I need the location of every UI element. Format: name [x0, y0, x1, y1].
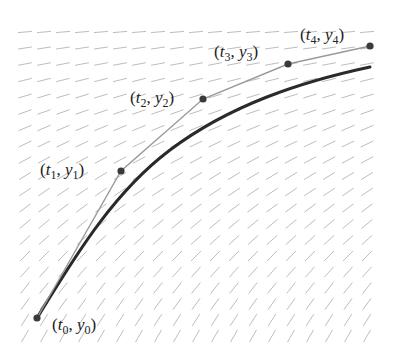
slope-segment	[288, 330, 295, 342]
slope-segment	[209, 172, 221, 179]
label-p1: (t1, y1)	[40, 160, 84, 182]
euler-points	[33, 42, 373, 321]
slope-segment	[361, 204, 372, 212]
slope-segment	[37, 110, 50, 115]
slope-segment	[360, 110, 373, 115]
slope-segment	[246, 31, 260, 32]
slope-segment	[284, 110, 297, 115]
slope-segment	[268, 298, 276, 309]
slope-segment	[227, 31, 241, 32]
slope-segment	[266, 141, 279, 147]
slope-segment	[208, 31, 222, 32]
slope-segment	[171, 172, 183, 179]
slope-segment	[19, 125, 32, 130]
slope-segment	[228, 125, 241, 130]
slope-segment	[246, 110, 259, 115]
slope-segment	[58, 235, 68, 244]
slope-segment	[209, 204, 220, 212]
slope-segment	[266, 172, 278, 179]
slope-segment	[265, 63, 279, 66]
slope-segment	[344, 283, 353, 294]
label-p0: (t0, y0)	[52, 315, 96, 337]
slope-segment	[132, 47, 146, 49]
slope-segment	[265, 110, 278, 115]
slope-segment	[113, 31, 127, 32]
slope-segment	[344, 298, 352, 309]
point-labels: (t0, y0)(t1, y1)(t2, y2)(t3, y3)(t4, y4)	[40, 25, 344, 337]
slope-segment	[57, 141, 70, 147]
slope-segment	[58, 220, 69, 229]
slope-segment	[323, 188, 335, 196]
slope-segment	[117, 330, 124, 342]
slope-segment	[75, 110, 88, 115]
slope-segment	[20, 235, 30, 244]
slope-segment	[151, 31, 165, 32]
slope-segment	[78, 298, 86, 309]
slope-segment	[174, 330, 181, 342]
slope-segment	[304, 172, 316, 179]
slope-segment	[75, 31, 89, 32]
slope-segment	[95, 157, 107, 164]
slope-segment	[152, 188, 164, 196]
slope-segment	[39, 235, 49, 244]
slope-segment	[151, 78, 165, 81]
point-p3	[284, 60, 291, 67]
slope-segment	[94, 78, 108, 81]
slope-segment	[155, 330, 162, 342]
slope-segment	[362, 267, 371, 277]
slope-segment	[342, 141, 355, 147]
slope-segment	[361, 125, 374, 130]
slope-segment	[248, 220, 259, 229]
label-p3: (t3, y3)	[214, 42, 258, 64]
slope-segment	[114, 157, 126, 164]
slope-segment	[56, 78, 70, 81]
slope-segment	[78, 283, 87, 294]
slope-segment	[363, 298, 371, 309]
slope-segment	[228, 188, 240, 196]
slope-segment	[133, 157, 145, 164]
slope-segment	[342, 172, 354, 179]
slope-segment	[267, 267, 276, 277]
slope-segment	[115, 235, 125, 244]
slope-segment	[344, 314, 352, 326]
slope-segment	[114, 141, 127, 147]
slope-segment	[209, 157, 221, 164]
slope-segment	[364, 330, 371, 342]
slope-segment	[172, 251, 182, 261]
slope-segment	[305, 220, 316, 229]
slope-segment	[267, 251, 277, 261]
slope-segment	[363, 283, 372, 294]
slope-segment	[284, 47, 298, 49]
slope-segment	[20, 267, 29, 277]
slope-segment	[173, 298, 181, 309]
slope-segment	[322, 63, 336, 66]
slope-segment	[151, 110, 164, 115]
slope-segment	[343, 267, 352, 277]
slope-segment	[22, 330, 29, 342]
slope-segment	[58, 251, 68, 261]
slope-segment	[305, 267, 314, 277]
label-p2: (t2, y2)	[130, 88, 174, 110]
slope-segment	[172, 220, 183, 229]
slope-segment	[341, 110, 354, 115]
slope-segment	[170, 78, 184, 81]
euler-diagram: (t0, y0)(t1, y1)(t2, y2)(t3, y3)(t4, y4)	[0, 0, 404, 350]
slope-segment	[57, 204, 68, 212]
slope-segment	[362, 220, 373, 229]
slope-segment	[266, 188, 278, 196]
slope-segment	[210, 267, 219, 277]
slope-segment	[97, 298, 105, 309]
slope-segment	[41, 330, 48, 342]
slope-segment	[306, 283, 315, 294]
slope-segment	[324, 220, 335, 229]
slope-segment	[323, 172, 335, 179]
slope-segment	[325, 298, 333, 309]
slope-segment	[324, 235, 334, 244]
slope-segment	[76, 188, 88, 196]
slope-segment	[133, 125, 146, 130]
slope-segment	[76, 141, 89, 147]
slope-segment	[172, 267, 181, 277]
slope-segment	[37, 47, 51, 49]
slope-segment	[38, 204, 49, 212]
slope-segment	[98, 330, 105, 342]
